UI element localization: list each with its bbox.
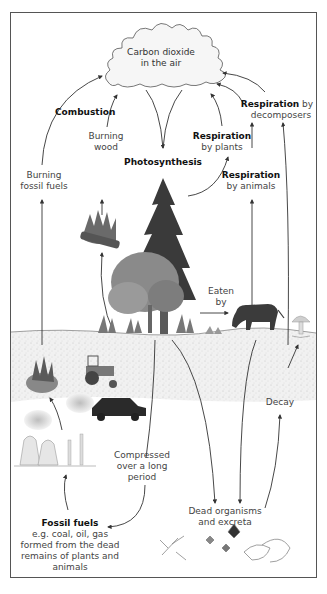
power-station-illustration bbox=[14, 410, 96, 466]
dead-organisms-line2: and excreta bbox=[198, 517, 251, 527]
fossil-fuels-line2: formed from the dead bbox=[20, 540, 119, 550]
resp-decomposers-line2: decomposers bbox=[251, 110, 312, 120]
compressed-line1: Compressed bbox=[114, 450, 170, 460]
arrow-decomposers-top bbox=[223, 73, 265, 92]
fossil-fuels-title: Fossil fuels bbox=[42, 518, 99, 528]
resp-animals-rest: by animals bbox=[226, 181, 275, 191]
arrow-mushroom-to-decomposers bbox=[283, 123, 288, 345]
fossil-fuels-line3: remains of plants and bbox=[21, 551, 119, 561]
resp-decomposers-line1: Respiration by bbox=[241, 99, 314, 109]
arrow-resp-plants bbox=[211, 94, 222, 126]
arrow-fossil-to-power bbox=[64, 475, 68, 510]
resp-decomposers-by: by bbox=[299, 99, 314, 109]
carbon-cycle-diagram: Carbon dioxide in the air bbox=[0, 0, 327, 594]
resp-animals-bold: Respiration bbox=[222, 170, 280, 180]
arrow-compressed-to-fossil bbox=[108, 485, 145, 527]
compressed-line2: over a long bbox=[117, 461, 168, 471]
arrow-photosynthesis-left bbox=[146, 90, 163, 148]
arrow-power-to-fire bbox=[50, 398, 62, 430]
resp-plants-bold: Respiration bbox=[193, 131, 251, 141]
burning-wood-label-line2: wood bbox=[94, 142, 118, 152]
co2-label-line1: Carbon dioxide bbox=[127, 47, 195, 57]
burning-fossil-label-line1: Burning bbox=[26, 170, 61, 180]
burning-fossil-label-line2: fossil fuels bbox=[20, 181, 68, 191]
compressed-line3: period bbox=[128, 472, 157, 482]
burning-wood-label-line1: Burning bbox=[88, 131, 123, 141]
soil-layer bbox=[11, 328, 316, 402]
photosynthesis-label: Photosynthesis bbox=[124, 157, 202, 167]
dead-organisms-illustration bbox=[160, 524, 290, 562]
arrow-dead-to-decay bbox=[265, 415, 280, 508]
dead-organisms-line1: Dead organisms bbox=[188, 506, 261, 516]
resp-plants-rest: by plants bbox=[201, 142, 243, 152]
cow-illustration bbox=[232, 304, 284, 330]
resp-decomposers-bold: Respiration bbox=[241, 99, 299, 109]
fossil-fuels-line4: animals bbox=[52, 562, 88, 572]
arrow-photosynthesis-right bbox=[163, 90, 182, 148]
fossil-fuels-line1: e.g. coal, oil, gas bbox=[32, 529, 108, 539]
burning-wood-illustration bbox=[80, 210, 121, 249]
co2-label-line2: in the air bbox=[141, 58, 182, 68]
eaten-by-line1: Eaten bbox=[208, 286, 234, 296]
arrow-resp-decomposers bbox=[217, 84, 243, 103]
eaten-by-line2: by bbox=[215, 297, 227, 307]
combustion-label: Combustion bbox=[55, 107, 115, 117]
decay-label: Decay bbox=[266, 397, 295, 407]
